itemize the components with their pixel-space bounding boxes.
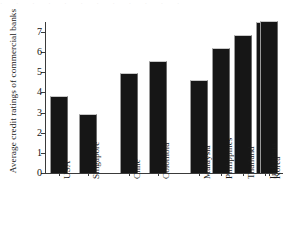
x-tick-mark xyxy=(221,173,222,176)
x-tick-mark xyxy=(265,173,266,176)
x-tick-label-singapore: Singapore xyxy=(92,142,101,179)
x-tick-label-chile: Chile xyxy=(133,159,142,179)
y-tick-label: 0 xyxy=(37,168,42,178)
bar-chart-figure: · · · · · · · · · · · · Average credit r… xyxy=(0,0,294,227)
x-tick-mark xyxy=(199,173,200,176)
y-tick-label: 5 xyxy=(37,67,42,77)
y-tick-label: 2 xyxy=(37,128,42,138)
x-tick-label-colombia: Colombia xyxy=(162,143,171,179)
y-axis-title-container: Average credit ratings of commercial ban… xyxy=(0,0,26,182)
x-tick-mark xyxy=(243,173,244,176)
cropped-caption-artifact: · · · · · · · · · · · · xyxy=(0,0,294,6)
x-tick-mark xyxy=(59,173,60,176)
x-tick-label-thailand: Thailand xyxy=(247,146,256,179)
bar-chile xyxy=(120,73,138,173)
y-tick-label: 7 xyxy=(37,27,42,37)
x-tick-mark xyxy=(158,173,159,176)
y-axis-line xyxy=(45,22,46,173)
y-tick-label: 3 xyxy=(37,108,42,118)
x-tick-label-usa: USA xyxy=(63,161,72,179)
x-tick-label-malaysia: Malaysia xyxy=(203,145,212,179)
x-tick-mark xyxy=(129,173,130,176)
x-tick-mark xyxy=(269,173,270,176)
plot-area: 01234567 USASingaporeChileColombiaMalays… xyxy=(45,22,283,173)
y-tick-label: 4 xyxy=(37,87,42,97)
y-axis-title: Average credit ratings of commercial ban… xyxy=(8,9,18,174)
x-tick-mark xyxy=(88,173,89,176)
y-tick-label: 6 xyxy=(37,47,42,57)
x-tick-label-korea: Korea xyxy=(273,157,282,179)
x-tick-label-philippines: Philippines xyxy=(225,138,234,179)
y-tick-label: 1 xyxy=(37,148,42,158)
